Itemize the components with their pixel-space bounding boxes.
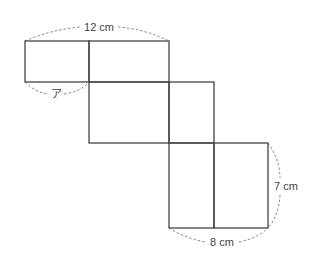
net-lines <box>25 41 268 228</box>
a-arc-left <box>25 82 47 94</box>
bottom-width-label: 8 cm <box>210 236 234 248</box>
unknown-label: ア <box>51 88 62 100</box>
bottom-arc-right <box>239 228 268 242</box>
bottom-arc-left <box>169 228 205 242</box>
top-width-label: 12 cm <box>84 21 114 33</box>
face-bottom-right <box>214 143 268 228</box>
face-top-right <box>89 41 169 82</box>
top-arc-right <box>118 27 169 41</box>
a-arc-right <box>64 82 89 94</box>
right-arc-bottom <box>268 195 280 228</box>
right-arc-top <box>268 143 280 178</box>
face-middle-left <box>89 82 169 143</box>
face-bottom-left <box>169 143 214 228</box>
top-arc-left <box>25 27 80 41</box>
face-top-left <box>25 41 89 82</box>
dimension-arcs <box>25 27 280 242</box>
right-height-label: 7 cm <box>274 180 298 192</box>
cube-net-diagram: 12 cm ア 7 cm 8 cm <box>0 0 323 265</box>
face-middle-right <box>169 82 214 143</box>
